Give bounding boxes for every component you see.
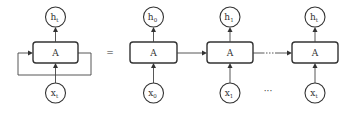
input-arrowhead-icon-1 (228, 63, 233, 68)
input-arrowhead-icon-t (313, 63, 318, 68)
unrolled-step-0: A h0 x0 (130, 7, 177, 103)
hidden-arrowhead-icon-0-1 (202, 51, 207, 56)
equals-sign: = (106, 48, 114, 58)
input-ellipsis: ··· (264, 86, 273, 96)
cell-label-0: A (149, 48, 157, 58)
folded-output-arrowhead-icon (53, 27, 58, 32)
cell-label-t: A (311, 48, 319, 58)
loop-arrowhead-icon (28, 51, 33, 56)
folded-cell-label: A (51, 48, 59, 58)
unrolled-step-1: A h1 x1 (207, 7, 253, 103)
output-arrowhead-icon-1 (228, 27, 233, 32)
folded-input-arrowhead-icon (53, 63, 58, 68)
rnn-diagram: A ht xt = A h0 x0 (0, 0, 352, 113)
output-arrowhead-icon-0 (151, 27, 156, 32)
cell-label-1: A (226, 48, 234, 58)
folded-rnn: A ht xt (18, 7, 91, 103)
input-arrowhead-icon-0 (151, 63, 156, 68)
unrolled-step-t: A ht xt (292, 7, 338, 103)
hidden-arrowhead-icon-1-t (287, 51, 292, 56)
output-arrowhead-icon-t (313, 27, 318, 32)
